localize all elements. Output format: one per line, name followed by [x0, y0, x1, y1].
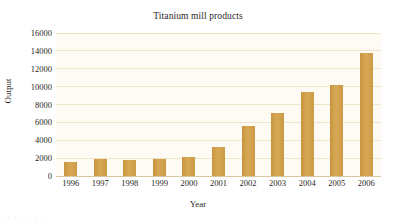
y-tick-label: 6000	[8, 118, 52, 127]
bar	[64, 162, 77, 176]
bar	[242, 126, 255, 176]
bar	[153, 159, 166, 176]
x-tick-label: 2006	[349, 179, 383, 188]
gridline	[56, 68, 381, 69]
bar	[360, 53, 373, 176]
bar	[94, 159, 107, 176]
bar	[271, 113, 284, 176]
bar	[301, 92, 314, 176]
x-axis-label: Year	[0, 199, 396, 209]
y-tick-label: 2000	[8, 154, 52, 163]
plot-area	[56, 33, 381, 176]
bar	[330, 85, 343, 176]
chart-figure: Titanium mill products Output 0200040006…	[0, 0, 396, 220]
page-bleed-text: · · · · · · ·	[0, 214, 396, 220]
bar	[123, 160, 136, 176]
chart-title: Titanium mill products	[0, 11, 396, 21]
gridline	[56, 50, 381, 51]
bar	[182, 157, 195, 176]
y-tick-label: 0	[8, 172, 52, 181]
bar	[212, 147, 225, 176]
y-tick-label: 8000	[8, 101, 52, 110]
y-tick-label: 12000	[8, 65, 52, 74]
y-tick-label: 10000	[8, 83, 52, 92]
gridline	[56, 33, 381, 34]
y-tick-label: 14000	[8, 47, 52, 56]
y-tick-label: 16000	[8, 29, 52, 38]
y-tick-label: 4000	[8, 136, 52, 145]
